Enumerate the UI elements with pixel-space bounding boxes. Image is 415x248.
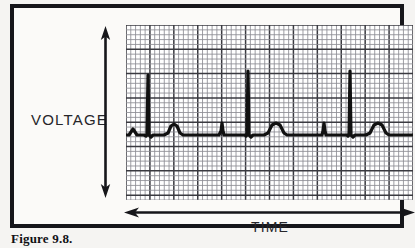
ecg-chart: [126, 25, 413, 200]
double-headed-vertical-arrow-icon: [97, 26, 114, 198]
ecg-waveform-trace: [126, 25, 413, 200]
x-axis-label-time: TIME: [126, 219, 414, 235]
figure-frame: VOLTAGE TIME: [10, 4, 404, 228]
figure-caption: Figure 9.8.: [11, 231, 73, 247]
figure-page: VOLTAGE TIME Figure 9.8.: [0, 0, 415, 248]
y-axis-label-voltage: VOLTAGE: [31, 111, 103, 128]
